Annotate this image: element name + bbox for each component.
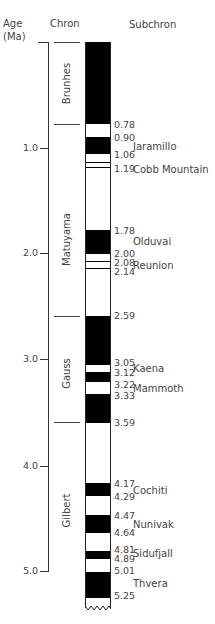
age-axis-top-tick	[38, 42, 49, 43]
age-axis-tick	[40, 253, 49, 254]
normal-band-reunion-bottom	[86, 268, 110, 269]
age-tick-label: 4.0	[6, 460, 38, 471]
band-edge	[86, 422, 110, 423]
age-label: 5.25	[114, 591, 135, 601]
normal-band-nunivak	[86, 515, 110, 533]
age-header: Age	[3, 18, 22, 30]
normal-band-cochiti	[86, 483, 110, 496]
age-label: 4.17	[114, 479, 135, 489]
normal-band-reunion-top	[86, 261, 110, 262]
age-label: 3.59	[114, 418, 135, 428]
normal-band-gauss-lower	[86, 394, 110, 422]
normal-band-cobb-mountain	[86, 167, 110, 168]
subchron-label-nunivak: Nunivak	[133, 519, 174, 530]
age-tick-label: 5.0	[6, 565, 38, 576]
subchron-label-jaramillo: Jaramillo	[133, 141, 177, 152]
normal-band-gauss-middle	[86, 372, 110, 382]
subchron-label-reunion: Reunion	[133, 260, 174, 271]
zigzag-break-icon	[85, 603, 111, 611]
chron-label-gilbert: Gilbert	[61, 481, 72, 541]
chron-boundary-gauss-gilbert	[54, 422, 80, 423]
normal-band-brunhes	[86, 42, 110, 124]
age-axis-tick	[40, 148, 49, 149]
age-label: 2.14	[114, 267, 135, 277]
age-label: 4.29	[114, 492, 135, 502]
age-tick-label: 1.0	[6, 142, 38, 153]
age-label: 3.33	[114, 391, 135, 401]
age-label: 4.89	[114, 554, 135, 564]
age-tick-label: 3.0	[6, 353, 38, 364]
subchron-label-olduvai: Olduvai	[133, 236, 171, 247]
subchron-label-cobb-mountain: Cobb Mountain	[133, 164, 209, 175]
age-label: 4.47	[114, 511, 135, 521]
age-axis-line	[48, 42, 49, 572]
normal-band-gauss-upper	[86, 316, 110, 365]
chron-boundary-matuyama-gauss	[54, 316, 80, 317]
age-label: 4.64	[114, 528, 135, 538]
age-tick-label: 2.0	[6, 247, 38, 258]
band-edge	[86, 597, 110, 598]
age-axis-tick	[40, 466, 49, 467]
age-label: 1.78	[114, 226, 135, 236]
chron-header: Chron	[50, 18, 80, 30]
normal-band-sidufjall	[86, 551, 110, 559]
subchron-header: Subchron	[129, 19, 176, 31]
subchron-label-kaena: Kaena	[133, 363, 164, 374]
band-edge	[86, 162, 110, 163]
age-label: 5.01	[114, 566, 135, 576]
chron-label-matuyama: Matuyama	[61, 210, 72, 270]
age-label: 1.19	[114, 164, 135, 174]
age-unit-header: (Ma)	[3, 31, 26, 43]
chron-boundary-brunhes-matuyama	[54, 124, 80, 125]
age-label: 2.59	[114, 311, 135, 321]
age-label: 0.78	[114, 120, 135, 130]
age-label: 3.22	[114, 380, 135, 390]
polarity-column	[85, 42, 111, 608]
subchron-label-sidufjall: Sidufjall	[133, 548, 173, 559]
subchron-label-thvera: Thvera	[133, 578, 168, 589]
normal-band-olduvai	[86, 230, 110, 253]
age-axis-tick	[40, 359, 49, 360]
normal-band-jaramillo	[86, 137, 110, 154]
subchron-label-mammoth: Mammoth	[133, 383, 184, 394]
age-axis-tick	[40, 571, 49, 572]
chron-label-brunhes: Brunhes	[61, 54, 72, 114]
age-label: 3.12	[114, 368, 135, 378]
subchron-label-cochiti: Cochiti	[133, 485, 167, 496]
normal-band-thvera	[86, 572, 110, 597]
band-edge	[86, 253, 110, 254]
chron-boundary-0	[54, 42, 80, 43]
age-label: 1.06	[114, 150, 135, 160]
age-label: 0.90	[114, 133, 135, 143]
chron-label-gauss: Gauss	[61, 344, 72, 404]
